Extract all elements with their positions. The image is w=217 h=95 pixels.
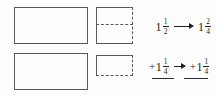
bottom-left-plus-sign: +: [149, 61, 155, 72]
bottom-quarter-rectangle: [96, 55, 133, 76]
left-sum-underline: [152, 78, 174, 79]
top-right-fraction: 2 4: [205, 18, 211, 35]
top-right-numerator: 2: [205, 18, 211, 26]
bottom-left-fraction: 1 4: [163, 58, 169, 75]
top-left-fraction: 1 2: [163, 18, 169, 35]
top-half-square-split-into-fourths: [96, 7, 133, 44]
top-row-arrow-icon: [174, 23, 193, 30]
top-whole-unit-rectangle: [14, 7, 88, 44]
fraction-area-model-figure: 1 1 2 1 2 4 + 1 1: [0, 0, 217, 95]
equation-bottom-row: + 1 1 4 + 1 1 4: [149, 58, 209, 75]
top-right-term: 1 2 4: [198, 18, 212, 35]
top-left-term: 1 1 2: [155, 18, 169, 35]
top-left-numerator: 1: [163, 18, 169, 26]
equation-top-row: 1 1 2 1 2 4: [155, 18, 211, 35]
bottom-right-numerator: 1: [204, 58, 210, 66]
right-sum-underline: [184, 78, 208, 79]
bottom-whole-unit-rectangle: [14, 53, 88, 90]
bottom-row-arrow-icon: [174, 63, 185, 70]
top-right-whole-number: 1: [198, 21, 204, 33]
bottom-left-denominator: 4: [163, 67, 169, 75]
bottom-right-denominator: 4: [204, 67, 210, 75]
top-left-whole-number: 1: [156, 21, 162, 33]
top-right-denominator: 4: [205, 27, 211, 35]
bottom-right-fraction: 1 4: [203, 58, 209, 75]
bottom-right-whole-number: 1: [196, 61, 202, 73]
bottom-right-plus-sign: +: [190, 61, 196, 72]
bottom-left-term: + 1 1 4: [149, 58, 169, 75]
bottom-left-numerator: 1: [163, 58, 169, 66]
dashed-horizontal-divider: [96, 24, 133, 25]
bottom-left-whole-number: 1: [156, 61, 162, 73]
top-left-denominator: 2: [163, 27, 169, 35]
bottom-right-term: + 1 1 4: [190, 58, 210, 75]
